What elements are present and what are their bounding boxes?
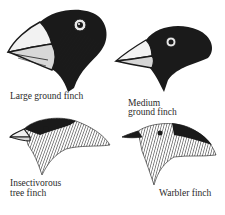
insectivorous-tree-finch-illustration <box>0 105 112 180</box>
large-ground-finch-panel: Large ground finch <box>0 0 112 105</box>
medium-ground-finch-panel: Medium ground finch <box>112 0 225 115</box>
warbler-finch-label: Warbler finch <box>159 188 211 199</box>
insectivorous-tree-finch-panel: Insectivorous tree finch <box>0 105 112 215</box>
large-ground-finch-label: Large ground finch <box>10 91 83 102</box>
warbler-finch-panel: Warbler finch <box>112 115 225 215</box>
warbler-finch-illustration <box>112 115 225 190</box>
medium-ground-finch-illustration <box>112 0 225 95</box>
insectivorous-tree-finch-label-line2: tree finch <box>10 188 46 199</box>
large-ground-finch-illustration <box>0 0 112 95</box>
